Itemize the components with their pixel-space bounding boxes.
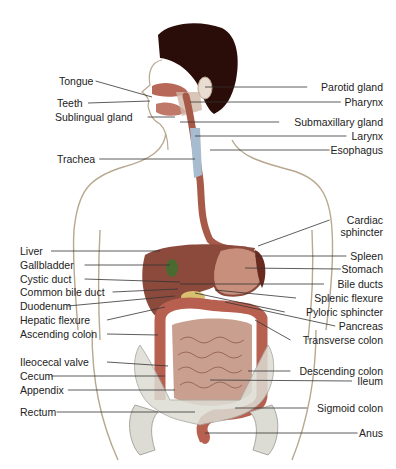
label-cardiac-sphincter: Cardiacsphincter (340, 214, 383, 238)
label-teeth: Teeth (57, 97, 83, 109)
label-ascending-colon: Ascending colon (20, 328, 97, 340)
label-duodenum: Duodenum (20, 300, 71, 312)
label-larynx: Larynx (351, 130, 383, 142)
gallbladder (166, 259, 178, 277)
digestive-system-diagram: TongueTeethSublingual glandTracheaLiverG… (0, 0, 396, 469)
label-bile-ducts: Bile ducts (337, 278, 383, 290)
label-cystic-duct: Cystic duct (20, 273, 71, 285)
label-anus: Anus (359, 427, 383, 439)
label-esophagus: Esophagus (330, 144, 383, 156)
label-liver: Liver (20, 245, 43, 257)
label-hepatic-flexure: Hepatic flexure (20, 314, 90, 326)
label-tongue: Tongue (59, 75, 93, 87)
label-gallbladder: Gallbladder (20, 259, 74, 271)
small-intestine (172, 319, 252, 406)
label-common-bile-duct: Common bile duct (20, 286, 105, 298)
label-ileum: Ileum (357, 375, 383, 387)
label-parotid-gland: Parotid gland (321, 81, 383, 93)
label-spleen: Spleen (350, 250, 383, 262)
label-pharynx: Pharynx (344, 96, 383, 108)
label-stomach: Stomach (342, 263, 383, 275)
trachea-shape (190, 128, 202, 178)
anatomy-illustration (0, 0, 396, 469)
label-appendix: Appendix (20, 384, 64, 396)
label-splenic-flexure: Splenic flexure (314, 292, 383, 304)
label-cecum: Cecum (20, 370, 53, 382)
label-sigmoid-colon: Sigmoid colon (317, 402, 383, 414)
label-pyloric-sphincter: Pyloric sphincter (306, 306, 383, 318)
label-pancreas: Pancreas (339, 320, 383, 332)
label-rectum: Rectum (20, 406, 56, 418)
label-transverse-colon: Transverse colon (303, 334, 383, 346)
label-submaxillary-gland: Submaxillary gland (294, 116, 383, 128)
label-ileocecal-valve: Ileocecal valve (20, 356, 89, 368)
label-sublingual-gland: Sublingual gland (55, 111, 133, 123)
label-trachea: Trachea (57, 153, 95, 165)
